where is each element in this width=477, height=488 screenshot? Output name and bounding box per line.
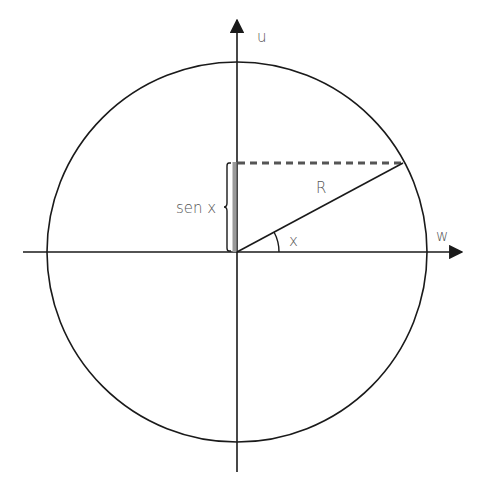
sine-segment — [233, 162, 237, 252]
sine-unit-circle-diagram: u w R x sen x — [0, 0, 477, 488]
w-axis-label: w — [436, 227, 448, 245]
sine-label: sen x — [176, 199, 216, 217]
angle-label: x — [289, 232, 298, 250]
radius-line — [237, 163, 403, 252]
radius-label: R — [316, 179, 326, 197]
u-axis-label: u — [257, 28, 267, 46]
angle-arc — [274, 232, 279, 252]
sine-brace — [224, 163, 231, 251]
